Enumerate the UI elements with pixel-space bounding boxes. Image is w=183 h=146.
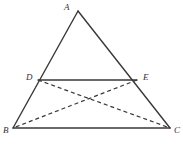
vertex-label-c: C — [174, 126, 180, 135]
vertex-label-b: B — [3, 126, 9, 135]
segment-side-ab — [13, 11, 78, 128]
segment-cevian-eb — [13, 80, 137, 128]
geometry-figure: A B C D E — [0, 0, 183, 146]
dashed-segments-group — [13, 80, 170, 128]
vertex-label-e: E — [143, 73, 149, 82]
segment-cevian-dc — [38, 80, 170, 128]
segment-side-ac — [78, 11, 170, 128]
vertex-label-a: A — [64, 3, 70, 12]
vertex-label-d: D — [26, 73, 33, 82]
solid-segments-group — [13, 11, 170, 128]
